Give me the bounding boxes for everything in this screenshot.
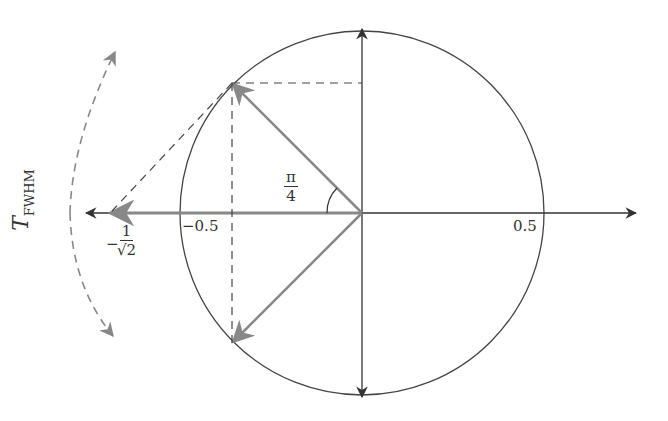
fwhm-label-main: T	[8, 216, 33, 231]
phasor-lower	[233, 213, 362, 342]
fwhm-curved-arrow-up	[70, 52, 115, 213]
fwhm-curved-arrow-down	[70, 213, 113, 336]
fwhm-label: TFWHM	[8, 169, 37, 231]
angle-arc	[327, 188, 337, 213]
inv-sqrt2-label: 1 √2	[117, 224, 136, 258]
angle-numerator: π	[284, 170, 298, 187]
tick-label-neg-half: −0.5	[182, 219, 218, 234]
angle-label: π 4	[284, 170, 298, 204]
inv-sqrt2-numerator: 1	[120, 224, 134, 241]
tick-label-pos-half: 0.5	[513, 219, 537, 234]
inv-sqrt2-denominator: √2	[117, 241, 136, 258]
phasor-diagram	[0, 0, 668, 421]
dashed-diagonal	[112, 83, 232, 211]
angle-denominator: 4	[286, 187, 296, 204]
fwhm-label-sub: FWHM	[22, 169, 37, 216]
